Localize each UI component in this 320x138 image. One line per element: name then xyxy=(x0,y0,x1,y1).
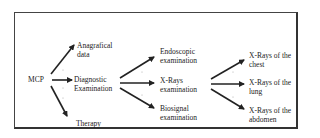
node-mcp-label: MCP xyxy=(28,75,44,84)
node-xr-chest: X-Rays of the chest xyxy=(249,52,291,69)
arrow-diagnostic-endoscopic xyxy=(120,57,154,78)
node-endoscopic: Endoscopic examination xyxy=(160,48,197,65)
node-diagnostic: Diagnostic Examination xyxy=(74,76,112,93)
node-therapy-line1: Therapy xyxy=(76,120,101,129)
node-biosignal-line2: examination xyxy=(160,114,197,123)
node-anagrafical-line2: data xyxy=(77,51,112,60)
arrow-diagnostic-biosignal xyxy=(120,88,154,108)
node-xr-abdomen: X-Rays of the abdomen xyxy=(249,107,291,124)
arrow-mcp-anagrafical xyxy=(51,45,74,74)
arrow-xrays-chest xyxy=(211,60,244,79)
node-mcp: MCP xyxy=(28,76,44,85)
node-therapy: Therapy xyxy=(76,120,101,129)
node-xr-chest-line2: chest xyxy=(249,61,291,70)
node-xrays: X-Rays examination xyxy=(160,77,197,94)
arrow-mcp-therapy xyxy=(51,86,67,116)
arrow-xrays-abdomen xyxy=(211,89,244,109)
node-biosignal: Biosignal examination xyxy=(160,105,197,122)
node-xr-lung-line2: lung xyxy=(249,88,291,97)
node-endoscopic-line2: examination xyxy=(160,57,197,66)
node-xr-abdomen-line2: abdomen xyxy=(249,116,291,125)
node-anagrafical: Anagrafical data xyxy=(77,42,112,59)
node-diagnostic-line2: Examination xyxy=(74,85,112,94)
node-xr-lung: X-Rays of the lung xyxy=(249,79,291,96)
node-xrays-line2: examination xyxy=(160,86,197,95)
